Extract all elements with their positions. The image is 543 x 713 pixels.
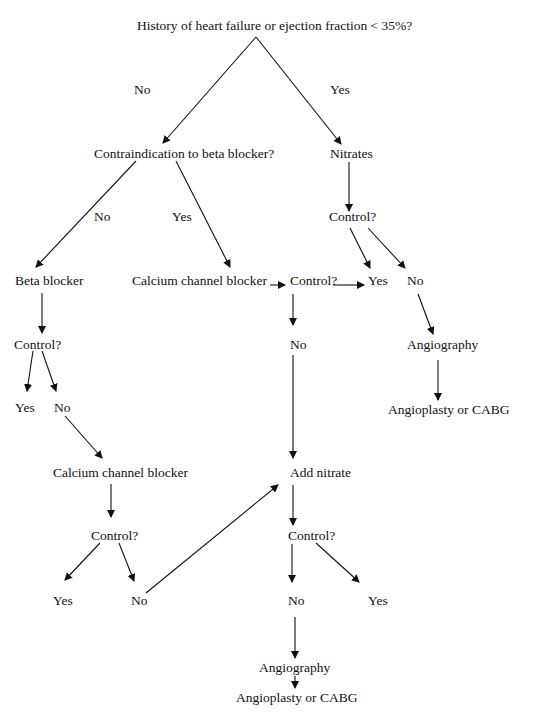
angioplasty-bottom-node: Angioplasty or CABG: [236, 690, 358, 706]
bb-control-question: Control?: [14, 337, 61, 353]
root-question: History of heart failure or ejection fra…: [137, 18, 412, 34]
ccb-node: Calcium channel blocker: [132, 273, 267, 289]
beta-blocker-node: Beta blocker: [15, 273, 84, 289]
control-yes-label: Yes: [368, 273, 388, 289]
angiography-bottom-node: Angiography: [259, 660, 330, 676]
add-nitrate-node: Add nitrate: [290, 465, 351, 481]
contraindication-question: Contraindication to beta blocker?: [94, 146, 274, 162]
nitrates-control-question: Control?: [329, 209, 376, 225]
add-nitrate-yes-label: Yes: [368, 593, 388, 609]
nitrates-no-label: No: [407, 273, 424, 289]
angioplasty-right-node: Angioplasty or CABG: [388, 402, 510, 418]
ccb-control-no-label: No: [290, 337, 307, 353]
ccb-second-node: Calcium channel blocker: [53, 465, 188, 481]
add-nitrate-control-question: Control?: [288, 528, 335, 544]
root-no-label: No: [134, 82, 151, 98]
ccb2-no-label: No: [131, 593, 148, 609]
nitrates-node: Nitrates: [330, 146, 373, 162]
add-nitrate-no-label: No: [288, 593, 305, 609]
contraindication-no-label: No: [94, 209, 111, 225]
bb-no-label: No: [54, 400, 71, 416]
ccb2-yes-label: Yes: [53, 593, 73, 609]
ccb2-control-question: Control?: [91, 528, 138, 544]
bb-yes-label: Yes: [15, 400, 35, 416]
angiography-right-node: Angiography: [407, 337, 478, 353]
root-yes-label: Yes: [330, 82, 350, 98]
ccb-control-question: Control?: [290, 273, 337, 289]
flowchart-arrows: [0, 0, 543, 713]
contraindication-yes-label: Yes: [172, 209, 192, 225]
